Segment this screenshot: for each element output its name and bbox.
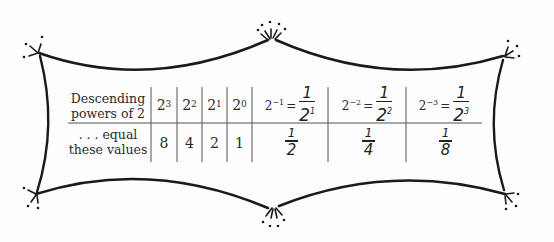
fraction: 1 23	[453, 86, 469, 124]
row-label-values: . . . equal these values	[66, 127, 150, 157]
value-cell: 8	[151, 123, 177, 162]
row-label-powers: Descending powers of 2	[66, 91, 150, 121]
power-cell: 22	[177, 87, 202, 123]
value-cell: 4	[177, 123, 202, 162]
sparkle-icon-bottom-right	[505, 193, 514, 204]
negative-power-cell: 2−2= 1 22	[328, 87, 406, 123]
power-cell: 23	[151, 87, 177, 123]
negative-power-cell: 2−1= 1 21	[252, 87, 328, 123]
fraction-value-cell: 18	[406, 123, 482, 162]
frame-top-left-curve	[39, 40, 268, 70]
value-cell: 2	[202, 123, 227, 162]
fraction: 1 22	[376, 86, 392, 124]
power-cell: 20	[227, 87, 252, 123]
fraction: 1 21	[299, 86, 315, 124]
frame-top-right-curve	[276, 40, 503, 70]
negative-power-cell: 2−3= 1 23	[406, 87, 482, 123]
fraction: 18	[439, 127, 452, 158]
power-cell: 21	[202, 87, 227, 123]
frame-right-edge	[494, 60, 504, 190]
fraction-value-cell: 14	[328, 123, 406, 162]
fraction-value-cell: 12	[252, 123, 328, 162]
fraction: 14	[362, 127, 375, 158]
sparkle-icon-bottom-center	[266, 208, 282, 218]
frame-bottom-right-curve	[279, 181, 505, 206]
frame-bottom-left-curve	[36, 179, 268, 208]
value-cell: 1	[227, 123, 252, 162]
sparkle-icon-top-center	[261, 29, 281, 40]
sparkle-icon-top-right	[505, 47, 514, 58]
fraction: 12	[285, 127, 298, 158]
frame-left-edge	[37, 56, 48, 192]
